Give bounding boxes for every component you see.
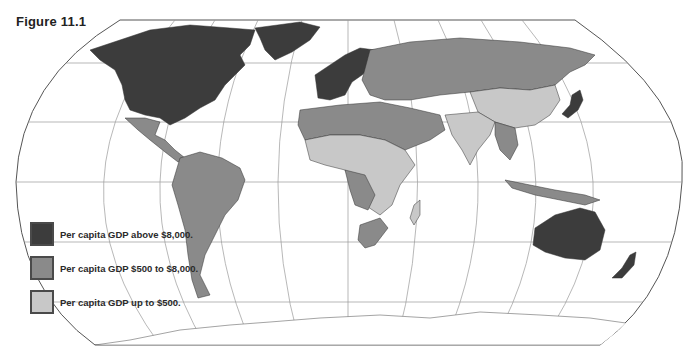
legend-swatch-low [30,290,54,314]
legend-label-low: Per capita GDP up to $500. [60,297,181,308]
legend-item-low: Per capita GDP up to $500. [30,290,181,314]
legend-label-middle: Per capita GDP $500 to $8,000. [60,263,198,274]
legend-swatch-high [30,222,54,246]
legend-item-high: Per capita GDP above $8,000. [30,222,193,246]
legend-swatch-middle [30,256,54,280]
legend-label-high: Per capita GDP above $8,000. [60,229,193,240]
legend-item-middle: Per capita GDP $500 to $8,000. [30,256,198,280]
